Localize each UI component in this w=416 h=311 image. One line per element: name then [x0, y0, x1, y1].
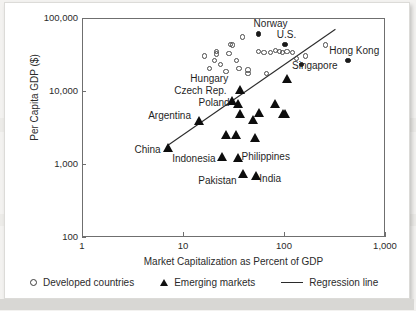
data-point-emerging [233, 99, 243, 108]
legend-label-regression: Regression line [309, 277, 378, 288]
point-label: Hong Kong [329, 46, 379, 56]
legend-item-developed: Developed countries [30, 277, 134, 288]
x-tick-label: 100 [276, 241, 292, 251]
data-point-developed [218, 62, 223, 67]
data-point-developed [303, 53, 308, 58]
chart-legend: Developed countries Emerging markets Reg… [30, 274, 386, 290]
data-point-developed [290, 50, 295, 55]
y-tick-mark [82, 237, 86, 238]
point-label: Czech Rep. [174, 86, 226, 96]
data-point-emerging [250, 133, 260, 142]
data-point-developed [240, 34, 245, 39]
data-point-emerging [221, 130, 231, 139]
point-label: Poland [199, 98, 230, 108]
data-point-emerging [235, 85, 245, 94]
chart-screenshot: Per Capita GDP ($) 1001,00010,000100,000… [0, 0, 416, 311]
legend-item-regression: Regression line [281, 277, 378, 288]
y-tick-label: 10,000 [4, 86, 78, 96]
data-point-emerging [280, 109, 290, 118]
point-label: Hungary [190, 74, 228, 84]
data-point-emerging [282, 74, 292, 83]
data-point-emerging [231, 130, 241, 139]
data-point-emerging [238, 169, 248, 178]
y-tick-label: 1,000 [4, 159, 78, 169]
point-label: Singapore [292, 61, 338, 71]
data-point-emerging [254, 108, 264, 117]
data-point-emerging [235, 109, 245, 118]
data-point-developed [234, 58, 239, 63]
x-tick-mark [82, 232, 83, 237]
y-tick-label: 100,000 [4, 13, 78, 23]
open-circle-icon [30, 279, 37, 286]
point-label: Argentina [148, 111, 191, 121]
y-tick-mark [82, 18, 86, 19]
x-tick-label: 1 [79, 241, 84, 251]
data-point-developed [202, 53, 207, 58]
point-label: Norway [254, 19, 288, 29]
y-tick-label: 100 [4, 232, 78, 242]
legend-label-emerging: Emerging markets [174, 277, 255, 288]
point-label: India [259, 174, 281, 184]
x-tick-mark [183, 232, 184, 237]
line-segment-icon [281, 282, 303, 283]
data-point-developed [236, 66, 241, 71]
data-point-emerging [217, 152, 227, 161]
point-label: Pakistan [198, 176, 236, 186]
point-label: Philippines [242, 152, 290, 162]
data-point-emerging [194, 116, 204, 125]
data-point-highlighted [256, 31, 261, 36]
y-tick-mark [82, 91, 86, 92]
y-tick-mark [82, 164, 86, 165]
data-point-developed [264, 71, 269, 76]
data-point-emerging [270, 99, 280, 108]
data-point-emerging [163, 143, 173, 152]
x-axis-title: Market Capitalization as Percent of GDP [82, 256, 385, 267]
filled-triangle-icon [160, 279, 168, 286]
x-tick-label: 10 [178, 241, 189, 251]
point-label: Indonesia [172, 154, 215, 164]
data-point-developed [261, 50, 266, 55]
data-point-highlighted [345, 58, 350, 63]
legend-label-developed: Developed countries [43, 277, 134, 288]
x-tick-mark [385, 232, 386, 237]
data-point-highlighted [282, 42, 287, 47]
data-point-developed [212, 58, 217, 63]
point-label: China [134, 145, 160, 155]
x-tick-mark [284, 232, 285, 237]
data-point-developed [207, 66, 212, 71]
point-label: U.S. [277, 30, 296, 40]
data-point-developed [323, 42, 328, 47]
y-axis-ticks: 1001,00010,000100,000 [0, 0, 78, 311]
data-point-developed [245, 67, 250, 72]
x-tick-label: 1,000 [373, 241, 397, 251]
data-point-developed [230, 42, 235, 47]
data-point-developed [226, 51, 231, 56]
legend-item-emerging: Emerging markets [160, 277, 255, 288]
